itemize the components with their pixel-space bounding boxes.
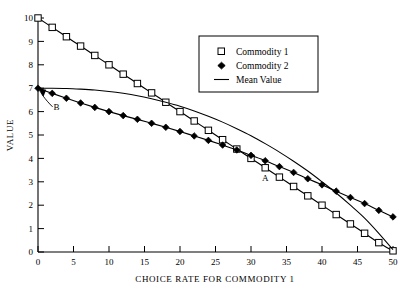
open-square-marker — [347, 221, 353, 227]
open-square-marker — [177, 108, 183, 114]
legend: Commodity 1 Commodity 2 Mean Value — [199, 36, 318, 92]
x-tick-label: 40 — [318, 257, 328, 267]
x-tick-label: 25 — [211, 257, 221, 267]
x-tick-label: 10 — [105, 257, 115, 267]
filled-diamond-marker — [148, 120, 155, 127]
x-tick-label: 5 — [71, 257, 76, 267]
filled-diamond-marker — [49, 90, 56, 97]
open-square-marker — [305, 193, 311, 199]
series-mean-value — [38, 88, 393, 249]
filled-diamond-marker — [77, 100, 84, 107]
filled-diamond-marker — [262, 157, 269, 164]
open-square-marker — [148, 90, 154, 96]
y-tick-label: 3 — [29, 177, 34, 187]
y-tick-label: 2 — [29, 200, 34, 210]
x-tick-label: 50 — [389, 257, 399, 267]
open-square-marker — [120, 71, 126, 77]
y-tick-label: 8 — [29, 60, 34, 70]
filled-diamond-marker — [276, 163, 283, 170]
x-axis-label: CHOICE RATE FOR COMMODITY 1 — [135, 274, 294, 284]
filled-diamond-marker — [191, 133, 198, 140]
open-square-marker — [290, 183, 296, 189]
x-axis-tick-labels: 05101520253035404550 — [36, 257, 398, 267]
open-square-marker — [361, 230, 367, 236]
x-tick-label: 45 — [353, 257, 363, 267]
open-square-marker — [376, 239, 382, 245]
filled-diamond-marker — [134, 116, 141, 123]
filled-diamond-marker — [290, 169, 297, 176]
annotation-layer: AB — [39, 88, 269, 183]
open-square-marker — [77, 43, 83, 49]
open-square-marker — [319, 202, 325, 208]
filled-diamond-marker — [319, 182, 326, 189]
x-tick-label: 15 — [140, 257, 150, 267]
y-tick-label: 4 — [29, 154, 34, 164]
filled-diamond-marker — [376, 207, 383, 214]
y-tick-label: 10 — [24, 13, 34, 23]
open-square-marker — [49, 24, 55, 30]
filled-diamond-marker — [390, 214, 397, 221]
legend-label-mean-value: Mean Value — [236, 75, 281, 85]
filled-diamond-marker — [305, 175, 312, 182]
x-tick-label: 35 — [282, 257, 292, 267]
open-square-marker — [106, 62, 112, 68]
legend-label-commodity-2: Commodity 2 — [236, 61, 289, 71]
open-square-marker — [276, 174, 282, 180]
open-square-marker — [333, 211, 339, 217]
open-square-marker — [191, 118, 197, 124]
y-tick-label: 7 — [29, 83, 34, 93]
open-square-marker — [390, 248, 396, 254]
x-tick-label: 20 — [176, 257, 186, 267]
y-tick-label: 1 — [29, 224, 34, 234]
filled-diamond-marker — [120, 112, 127, 119]
y-axis-label: VALUE — [5, 119, 15, 151]
open-square-marker — [92, 52, 98, 58]
x-tick-label: 30 — [247, 257, 257, 267]
annotation-label-b: B — [53, 102, 59, 112]
filled-diamond-marker — [163, 124, 170, 131]
open-square-marker — [262, 165, 268, 171]
filled-diamond-marker — [205, 137, 212, 144]
open-square-marker — [205, 127, 211, 133]
series-commodity-2 — [35, 85, 397, 220]
filled-diamond-marker — [361, 200, 368, 207]
open-square-marker — [63, 34, 69, 40]
annotation-label-a: A — [262, 173, 269, 183]
legend-label-commodity-1: Commodity 1 — [236, 47, 289, 57]
series-line — [38, 88, 393, 249]
y-tick-label: 9 — [29, 37, 34, 47]
filled-diamond-marker — [106, 108, 113, 115]
filled-diamond-marker — [347, 194, 354, 201]
open-square-marker-icon — [218, 48, 225, 55]
chart-container: 012345678910 05101520253035404550 CHOICE… — [0, 0, 419, 298]
y-axis-tick-labels: 012345678910 — [24, 13, 34, 257]
y-tick-label: 6 — [29, 107, 34, 117]
filled-diamond-marker — [63, 95, 70, 102]
x-tick-label: 0 — [36, 257, 41, 267]
open-square-marker — [35, 15, 41, 21]
value-vs-choice-rate-chart: 012345678910 05101520253035404550 CHOICE… — [0, 0, 419, 298]
filled-diamond-marker — [92, 104, 99, 111]
y-tick-label: 0 — [29, 247, 34, 257]
y-tick-label: 5 — [29, 130, 34, 140]
open-square-marker — [134, 80, 140, 86]
filled-diamond-marker — [177, 128, 184, 135]
